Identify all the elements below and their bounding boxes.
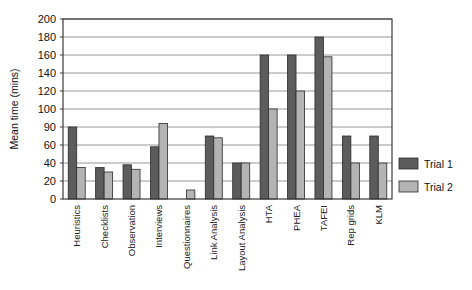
bar [205, 136, 214, 199]
bar [159, 123, 168, 199]
y-tick-label: 180 [38, 31, 56, 43]
bar [378, 163, 387, 199]
y-tick-label: 40 [44, 157, 56, 169]
bar [323, 57, 332, 199]
x-category-label: Link Analysis [208, 205, 219, 260]
bar [104, 172, 113, 199]
bar [186, 190, 195, 199]
legend-swatch [399, 158, 418, 169]
bar [123, 165, 132, 199]
x-category-label: Questionnaires [181, 205, 192, 269]
bar [288, 55, 297, 199]
x-category-label: Rep grids [345, 205, 356, 246]
y-tick-label: 200 [38, 13, 56, 25]
x-category-label: Checklists [99, 205, 110, 249]
bar [96, 168, 105, 200]
x-category-label: PHEA [291, 204, 302, 231]
y-tick-label: 90 [44, 121, 56, 133]
bar [233, 163, 242, 199]
x-category-label: Observation [126, 205, 137, 256]
x-category-label: Layout Analysis [236, 205, 247, 271]
x-category-label: HTA [263, 204, 274, 223]
bar-chart: 200180160140120100906040200 HeuristicsCh… [0, 0, 472, 290]
bar [315, 37, 324, 199]
legend-label: Trial 1 [424, 158, 453, 170]
y-axis-title: Mean time (mins) [8, 68, 20, 149]
bar [132, 169, 141, 199]
y-tick-label: 140 [38, 67, 56, 79]
bar [342, 136, 351, 199]
bar [296, 91, 305, 199]
bar [68, 127, 77, 199]
chart-canvas: 200180160140120100906040200 HeuristicsCh… [0, 0, 472, 290]
bar [351, 163, 360, 199]
bar [77, 168, 86, 200]
bar [370, 136, 379, 199]
x-category-label: TAFEI [318, 205, 329, 231]
bar [260, 55, 269, 199]
y-axis-title-text: Mean time (mins) [8, 68, 20, 149]
y-tick-label: 0 [50, 193, 56, 205]
y-tick-label: 100 [38, 103, 56, 115]
y-tick-label: 20 [44, 175, 56, 187]
y-tick-label: 120 [38, 85, 56, 97]
legend-swatch [399, 181, 418, 192]
bar [150, 147, 159, 199]
bar [241, 163, 250, 199]
bar [269, 109, 278, 199]
x-category-label: KLM [373, 205, 384, 225]
y-tick-label: 60 [44, 139, 56, 151]
legend-label: Trial 2 [424, 181, 453, 193]
x-category-label: Heuristics [71, 205, 82, 247]
bar [214, 138, 223, 199]
y-tick-label: 160 [38, 49, 56, 61]
x-category-label: Interviews [153, 205, 164, 248]
